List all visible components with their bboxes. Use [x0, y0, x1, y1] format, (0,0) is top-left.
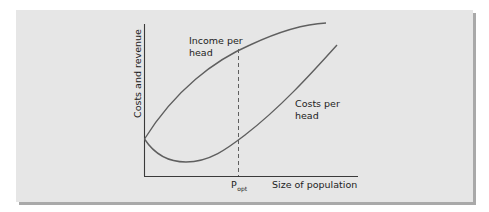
figure: Costs and revenue Size of population Pop…: [0, 0, 489, 212]
costs-per-head-label-line1: Costs per: [295, 98, 340, 109]
x-axis-title: Size of population: [272, 179, 357, 190]
p-opt-label: Popt: [231, 179, 248, 193]
optimum-population-chart: Costs and revenue Size of population Pop…: [0, 0, 489, 212]
y-axis-title: Costs and revenue: [132, 29, 143, 118]
costs-per-head-label-line2: head: [295, 110, 319, 121]
income-per-head-label-line2: head: [189, 47, 213, 58]
income-per-head-label-line1: Income per: [189, 35, 243, 46]
p-opt-subscript: opt: [237, 185, 247, 193]
p-opt-main: P: [231, 179, 237, 190]
